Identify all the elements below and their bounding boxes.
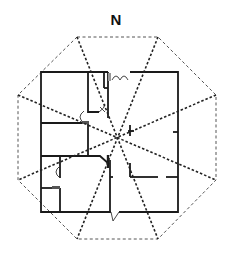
doors xyxy=(52,73,128,221)
interior-wall xyxy=(88,72,99,112)
outer-wall xyxy=(41,72,111,212)
bagua-sector-lines xyxy=(18,37,216,239)
front-door-swing xyxy=(112,76,128,80)
interior-wall xyxy=(41,156,109,164)
back-door-swing xyxy=(111,212,119,221)
bagua-floor-plan xyxy=(0,0,232,256)
floor-plan xyxy=(41,72,178,212)
